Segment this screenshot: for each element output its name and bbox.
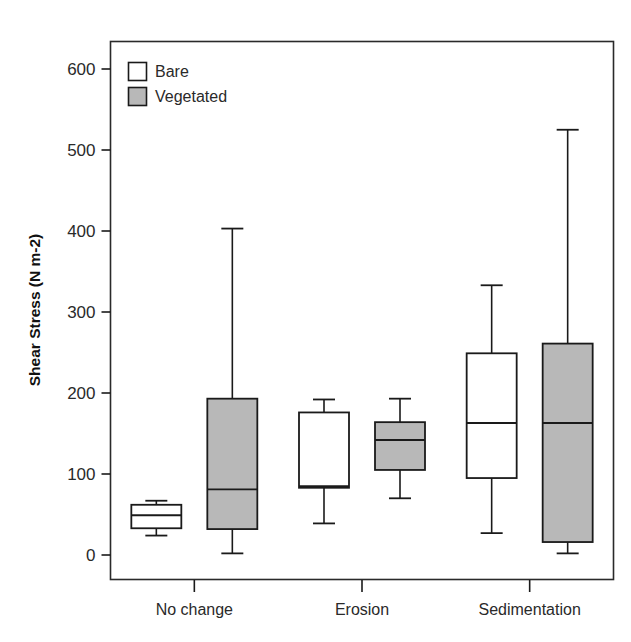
legend-label-bare: Bare [155, 63, 189, 80]
boxplot-chart: Shear Stress (N m-2) 0100200300400500600… [0, 0, 631, 642]
box-rect [543, 344, 593, 542]
box-rect [207, 399, 257, 529]
box-rect [299, 412, 349, 487]
legend-label-vegetated: Vegetated [155, 88, 227, 105]
y-tick-label: 200 [67, 384, 95, 403]
x-category-label: Sedimentation [479, 601, 581, 618]
y-tick-label: 500 [67, 141, 95, 160]
box-rect [467, 353, 517, 478]
y-tick-label: 100 [67, 465, 95, 484]
box-rect [131, 505, 181, 528]
x-category-label: No change [156, 601, 233, 618]
y-tick-label: 300 [67, 303, 95, 322]
legend-swatch-vegetated [129, 88, 147, 106]
y-axis-title: Shear Stress (N m-2) [26, 234, 43, 386]
y-tick-label: 400 [67, 222, 95, 241]
chart-canvas: Shear Stress (N m-2) 0100200300400500600… [0, 0, 631, 642]
legend-swatch-bare [129, 63, 147, 81]
box-rect [375, 422, 425, 470]
y-tick-label: 0 [86, 546, 95, 565]
x-category-label: Erosion [335, 601, 389, 618]
y-tick-label: 600 [67, 60, 95, 79]
